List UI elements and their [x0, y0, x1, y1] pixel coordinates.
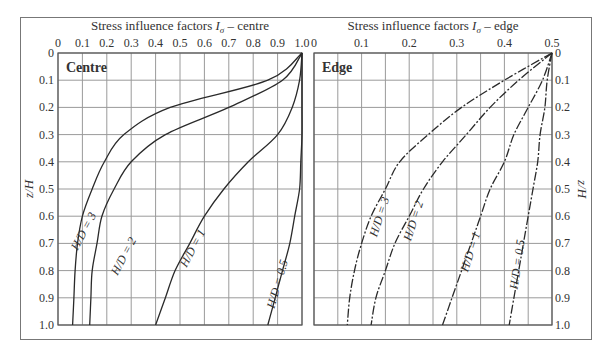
y-tick-label: 0.2	[39, 100, 54, 114]
x-tick-label: 0.2	[402, 36, 417, 50]
x-tick-label: 0.3	[124, 36, 139, 50]
y-tick-label: 0.1	[555, 73, 570, 87]
x-tick-label: 0.4	[497, 36, 512, 50]
centre-x-tick-labels: 00.10.20.30.40.50.60.70.80.91.0	[55, 36, 310, 50]
curve-label: H/D = 3	[366, 195, 392, 239]
edge-axis-title: Stress influence factors Iσ – edge	[348, 18, 519, 35]
y-tick-label: 1.0	[555, 318, 570, 332]
y-tick-label: 0.3	[39, 128, 54, 142]
y-tick-label: 0.4	[555, 155, 570, 169]
x-tick-label: 0.2	[99, 36, 114, 50]
y-tick-label: 0.7	[555, 236, 570, 250]
y-tick-label: 0.3	[555, 128, 570, 142]
x-tick-label: 0.3	[449, 36, 464, 50]
curve-label: H/D = 2	[107, 235, 139, 278]
x-tick-label: 0.6	[197, 36, 212, 50]
y-tick-label: 0.4	[39, 155, 54, 169]
curve-label: H/D = 0.5	[507, 239, 528, 291]
y-tick-label: 0.2	[555, 100, 570, 114]
x-tick-label: 0.9	[270, 36, 285, 50]
x-tick-label: 0	[55, 36, 61, 50]
y-tick-label: 0.1	[39, 73, 54, 87]
y-tick-label: 0.9	[555, 291, 570, 305]
x-tick-label: 0	[311, 36, 317, 50]
y-tick-label: 0.5	[555, 182, 570, 196]
curve-label: H/D = 0.5	[263, 258, 290, 311]
y-tick-label: 0.6	[39, 209, 54, 223]
stress-influence-figure: Stress influence factors Iσ – centre Str…	[0, 0, 608, 354]
y-tick-label: 0.9	[39, 291, 54, 305]
left-y-axis-label: z/H	[21, 179, 36, 199]
curve-label: H/D = 1	[457, 230, 483, 274]
y-tick-label: 0.7	[39, 236, 54, 250]
y-tick-label: 0	[48, 46, 54, 60]
x-tick-label: 0.1	[354, 36, 369, 50]
x-tick-label: 0.4	[148, 36, 163, 50]
centre-plot-grid	[58, 53, 302, 325]
x-tick-label: 0.8	[246, 36, 261, 50]
right-y-axis-label: z/H	[575, 179, 590, 199]
x-tick-label: 0.5	[173, 36, 188, 50]
x-tick-label: 0.7	[221, 36, 236, 50]
curve-labels: H/D = 3H/D = 2H/D = 1H/D = 0.5H/D = 3H/D…	[67, 195, 527, 310]
edge-panel-label: Edge	[322, 60, 352, 75]
edge-y-tick-labels: 00.10.20.30.40.50.60.70.80.91.0	[555, 46, 570, 332]
curve-label: H/D = 2	[400, 199, 426, 243]
centre-panel-label: Centre	[66, 60, 107, 75]
centre-y-tick-labels: 00.10.20.30.40.50.60.70.80.91.0	[39, 46, 54, 332]
curve-label: H/D = 1	[176, 227, 208, 270]
y-tick-label: 0	[555, 46, 561, 60]
centre-axis-title: Stress influence factors Iσ – centre	[91, 18, 269, 35]
edge-x-tick-labels: 00.10.20.30.40.5	[311, 36, 560, 50]
y-tick-label: 0.8	[39, 264, 54, 278]
y-tick-label: 0.6	[555, 209, 570, 223]
y-tick-label: 0.5	[39, 182, 54, 196]
y-tick-label: 1.0	[39, 318, 54, 332]
x-tick-label: 1.0	[295, 36, 310, 50]
x-tick-label: 0.1	[75, 36, 90, 50]
y-tick-label: 0.8	[555, 264, 570, 278]
